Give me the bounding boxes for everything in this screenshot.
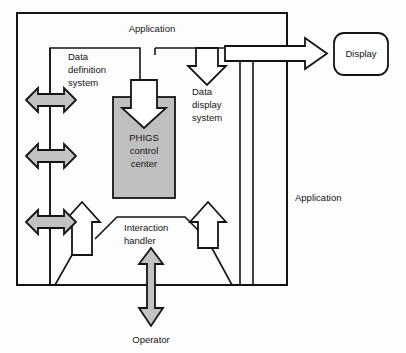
label-data-definition-line2: definition — [68, 64, 106, 75]
label-data-display-line3: system — [192, 112, 222, 123]
operator-double-arrow — [139, 248, 163, 326]
label-phigs-line1: PHIGS — [129, 132, 159, 143]
app-to-datadisplay-arrow — [188, 48, 226, 85]
label-application-top: Application — [129, 23, 175, 34]
label-display: Display — [345, 48, 376, 59]
gray-double-arrow-2 — [26, 144, 76, 168]
label-phigs-line2: control — [130, 145, 159, 156]
label-data-definition-line3: system — [68, 77, 98, 88]
label-data-definition-line1: Data — [68, 51, 89, 62]
interaction-handler-left-leg — [55, 255, 72, 285]
label-operator: Operator — [132, 334, 170, 345]
gray-double-arrow-1 — [26, 88, 76, 112]
diagram-canvas: Application Data definition system Data … — [0, 0, 406, 353]
label-phigs-line3: center — [131, 158, 157, 169]
label-data-display-line2: display — [192, 99, 222, 110]
label-application-right: Application — [295, 192, 341, 203]
label-interaction-line2: handler — [124, 235, 156, 246]
gray-double-arrow-3 — [26, 210, 76, 234]
phigs-diagram: Application Data definition system Data … — [0, 0, 406, 353]
label-data-display-line1: Data — [192, 86, 213, 97]
interaction-to-app-arrow — [190, 202, 226, 248]
label-interaction-line1: Interaction — [124, 222, 168, 233]
